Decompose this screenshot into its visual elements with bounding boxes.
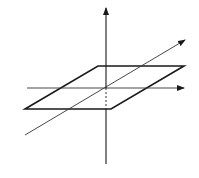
diagonal-line bbox=[25, 40, 185, 135]
diagram-canvas bbox=[0, 0, 199, 178]
